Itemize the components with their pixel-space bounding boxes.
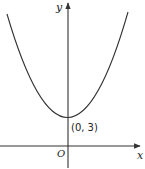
graph-canvas: y x O (0, 3)	[0, 0, 145, 169]
origin-label: O	[57, 148, 65, 159]
vertex-label: (0, 3)	[71, 122, 98, 133]
x-axis-label: x	[137, 149, 144, 162]
y-axis-label: y	[55, 1, 63, 14]
